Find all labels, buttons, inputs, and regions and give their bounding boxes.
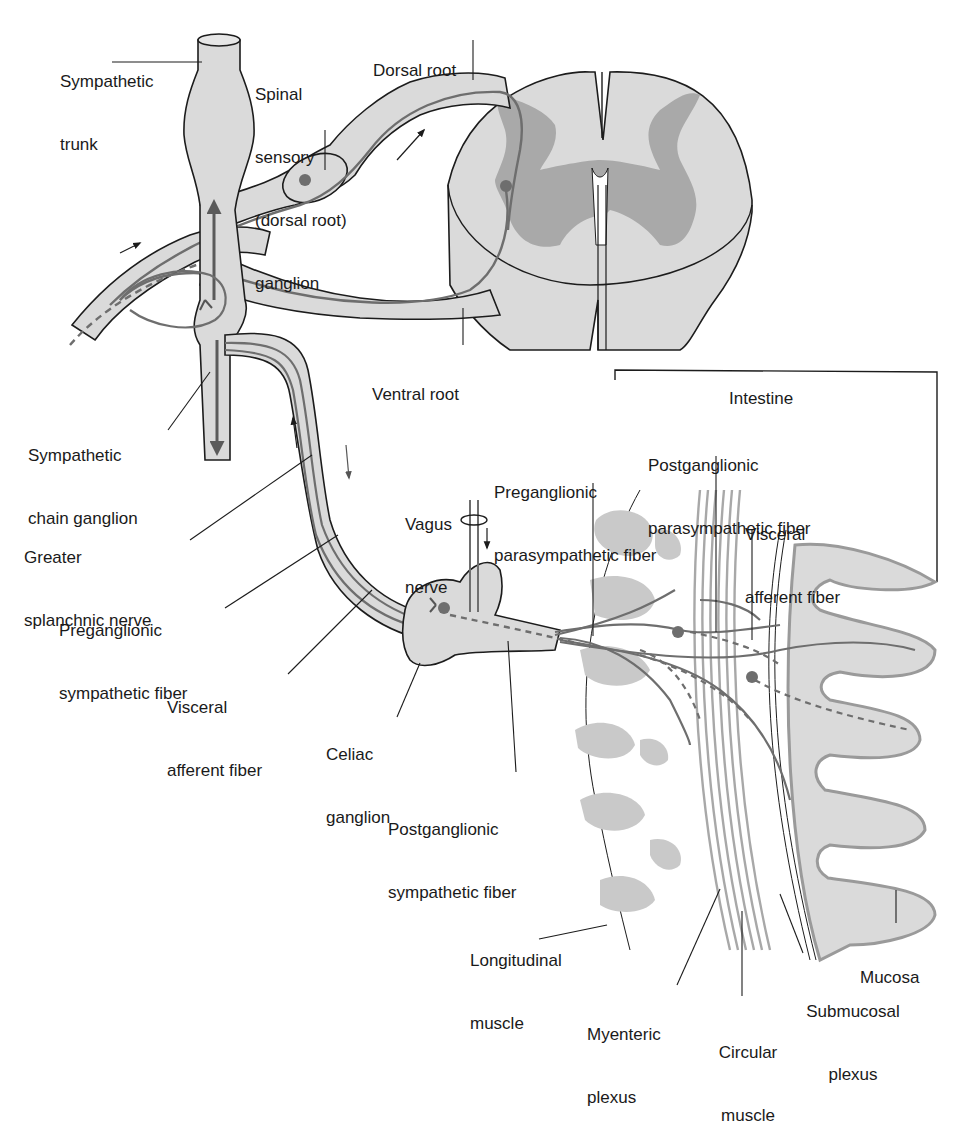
label-circular-muscle: Circular muscle bbox=[708, 1000, 788, 1125]
label-visceral-afferent-fiber-right: Visceral afferent fiber bbox=[745, 482, 840, 629]
label-mucosa: Mucosa bbox=[860, 925, 920, 1009]
label-myenteric-plexus: Myenteric plexus bbox=[587, 982, 661, 1125]
label-dorsal-root: Dorsal root bbox=[373, 18, 456, 102]
label-ventral-root: Ventral root bbox=[372, 342, 459, 426]
label-preganglionic-parasympathetic-fiber: Preganglionic parasympathetic fiber bbox=[494, 440, 657, 587]
label-postganglionic-sympathetic-fiber: Postganglionic sympathetic fiber bbox=[388, 777, 517, 924]
label-celiac-ganglion: Celiac ganglion bbox=[326, 702, 390, 849]
label-spinal-sensory-ganglion: Spinal sensory (dorsal root) ganglion bbox=[255, 42, 347, 315]
label-visceral-afferent-fiber-left: Visceral afferent fiber bbox=[167, 655, 262, 802]
label-longitudinal-muscle: Longitudinal muscle bbox=[470, 908, 562, 1055]
label-sympathetic-trunk: Sympathetic trunk bbox=[60, 29, 154, 176]
label-vagus-nerve: Vagus nerve bbox=[405, 472, 452, 619]
